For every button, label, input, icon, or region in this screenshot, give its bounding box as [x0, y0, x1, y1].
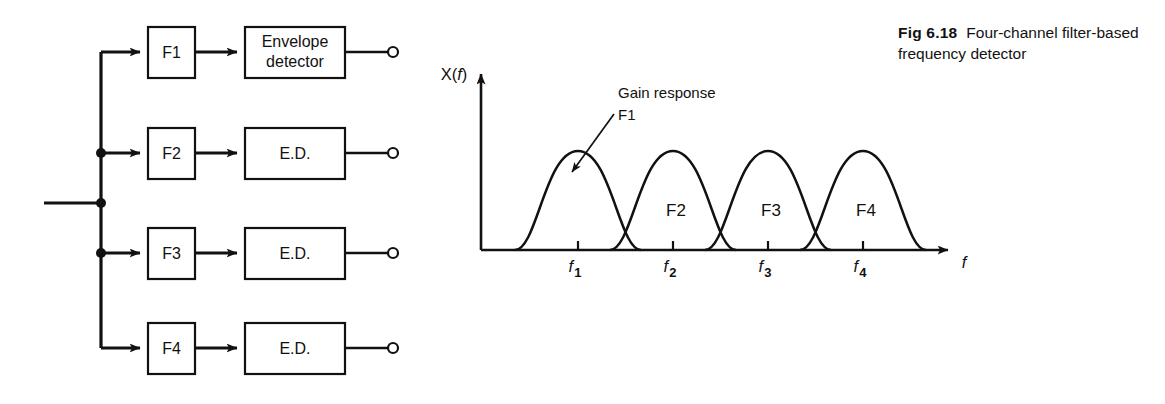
output-terminal-4[interactable] — [388, 343, 398, 353]
curve-label-f3: F3 — [761, 201, 781, 220]
x-tick-label-f2: f2 — [664, 257, 677, 280]
x-tick-label-f1: f1 — [569, 257, 582, 280]
y-axis-label: X(f) — [441, 65, 468, 83]
figure-root: F1 Envelope detector F2 E.D. — [0, 0, 1165, 404]
detector-label-1-line2: detector — [266, 53, 324, 70]
filter-label-f4: F4 — [162, 340, 181, 357]
block-diagram: F1 Envelope detector F2 E.D. — [44, 27, 398, 374]
x-tick-labels: f1 f2 f3 f4 — [569, 257, 868, 280]
output-terminal-3[interactable] — [388, 248, 398, 258]
channel-2: F2 E.D. — [101, 128, 398, 179]
output-terminal-2[interactable] — [388, 148, 398, 158]
filter-label-f1: F1 — [162, 44, 181, 61]
channel-4: F4 E.D. — [101, 323, 398, 374]
x-tick-label-f3: f3 — [759, 257, 772, 280]
output-terminal-1[interactable] — [388, 47, 398, 57]
gain-curve-f1 — [515, 151, 641, 250]
x-axis-label: f — [962, 253, 969, 271]
curve-label-f2: F2 — [666, 201, 686, 220]
detector-label-4: E.D. — [279, 340, 310, 357]
detector-label-1-line1: Envelope — [262, 33, 329, 50]
figure-caption-label: Fig 6.18 — [898, 24, 957, 41]
annotation-line2: F1 — [618, 106, 636, 123]
annotation-arrow — [572, 114, 614, 172]
figure-caption: Fig 6.18Four-channel filter-based freque… — [898, 22, 1148, 64]
x-tick-label-f4: f4 — [854, 257, 868, 280]
curve-label-f4: F4 — [856, 201, 876, 220]
junction-dot-input — [96, 198, 106, 208]
detector-label-2: E.D. — [279, 145, 310, 162]
input-bus — [44, 52, 106, 348]
detector-label-3: E.D. — [279, 245, 310, 262]
gain-response-chart: X(f) f f1 f2 f3 f4 — [441, 65, 969, 280]
channel-3: F3 E.D. — [101, 228, 398, 279]
annotation-line1: Gain response — [618, 84, 716, 101]
channel-1: F1 Envelope detector — [101, 27, 398, 78]
filter-label-f3: F3 — [162, 245, 181, 262]
filter-label-f2: F2 — [162, 145, 181, 162]
